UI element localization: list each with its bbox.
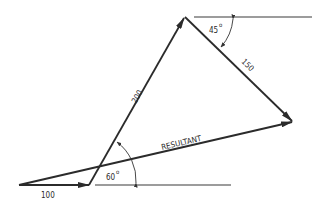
svg-text:o: o [116,168,120,175]
vector-150-label: 150 [240,57,256,73]
svg-text:60: 60 [106,173,116,182]
vector-diagram: 100 200 150 RESULTANT 60 o 45 o [0,0,317,206]
resultant-label: RESULTANT [160,134,202,152]
vector-150-arrow [185,17,292,121]
angle-45-arc [221,19,233,47]
resultant-arrow [19,122,292,185]
angle-60-label: 60 o [106,168,120,182]
vector-100-label: 100 [41,191,55,200]
svg-text:45: 45 [209,26,218,35]
angle-45-label: 45 o [209,21,223,35]
svg-text:o: o [219,21,223,28]
